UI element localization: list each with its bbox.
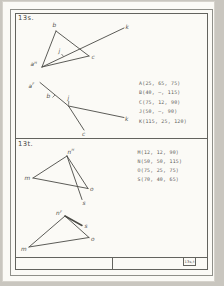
point-label-k: k [126, 24, 130, 30]
point-label-b: b [47, 93, 51, 99]
figure-edge [67, 156, 82, 200]
coordinate-entry: C(75, 12, 90) [139, 98, 187, 108]
coordinate-entry: N(50, 50, 115) [138, 157, 183, 166]
point-label-o: o [90, 186, 94, 192]
coordinate-entry: J(50, –, 90) [139, 107, 187, 117]
figure-edge [67, 156, 88, 189]
coordinate-entry: M(12, 12, 90) [138, 148, 183, 157]
13s-top-view: baHcjk [31, 22, 130, 67]
point-tick [62, 54, 64, 57]
point-label-c: c [82, 131, 86, 137]
point-label-b: b [53, 22, 57, 28]
coordinate-entry: O(75, 25, 75) [138, 166, 183, 175]
problem-label-13s: 13s. [18, 15, 34, 22]
coordinate-entry: S(70, 40, 65) [138, 175, 183, 184]
figure-edge [40, 83, 69, 107]
title-strip-divider [112, 257, 113, 270]
figure-edge [42, 28, 124, 67]
point-label-o: o [91, 236, 95, 242]
point-label-j: j [67, 95, 70, 102]
13s-front-view: aFbjck [29, 82, 130, 136]
13t-front-view: nFsom [21, 210, 95, 252]
point-label-m: m [25, 175, 31, 181]
point-label-a-H: aH [31, 61, 38, 67]
figure-edge [33, 156, 67, 178]
point-label-k: k [125, 116, 129, 122]
coordinate-entry: B(40, –, 115) [139, 88, 187, 98]
point-label-m: m [21, 246, 27, 252]
coordinate-entry: A(25, 65, 75) [139, 79, 187, 89]
figure-edge [33, 178, 88, 189]
point-label-a-F: aF [29, 82, 36, 88]
point-label-s: s [85, 223, 88, 229]
figure-edge [69, 106, 125, 118]
coordinate-list-13t: M(12, 12, 90)N(50, 50, 115)O(75, 25, 75)… [138, 148, 183, 185]
point-tick [53, 95, 56, 98]
figures-svg: baHcjkaFbjckmnHosnFsom [0, 0, 224, 286]
coordinate-list-13s: A(25, 65, 75)B(40, –, 115)C(75, 12, 90)J… [139, 79, 187, 127]
figure-edge [69, 106, 85, 130]
problem-label-13t: 13t. [18, 141, 33, 148]
point-label-j: j [58, 48, 61, 55]
13t-top-view: mnHos [25, 148, 95, 206]
figure-edge [42, 56, 89, 67]
point-label-n-H: nH [68, 148, 75, 154]
scanned-worksheet-page: baHcjkaFbjckmnHosnFsom 13s. A(25, 65, 75… [0, 0, 224, 286]
sheet-reference-text: 13s,t [185, 260, 195, 264]
point-label-c: c [92, 54, 96, 60]
point-label-s: s [83, 200, 86, 206]
sheet-reference-box: 13s,t [183, 257, 196, 266]
point-label-n-F: nF [56, 210, 63, 216]
coordinate-entry: K(115, 25, 120) [139, 117, 187, 127]
